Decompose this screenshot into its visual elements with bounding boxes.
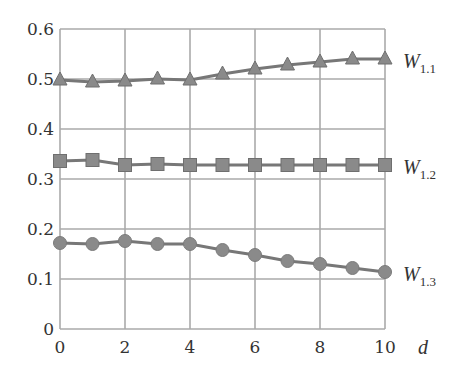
x-tick-label: 0 [55,337,66,357]
x-tick-label: 4 [185,337,196,357]
y-tick-label: 0.2 [27,219,54,239]
circle-marker [314,258,327,271]
square-marker [151,158,164,171]
y-tick-label: 0.4 [27,119,54,139]
square-marker [346,159,359,172]
data-series [53,51,392,279]
series-w1-2 [54,154,392,172]
square-marker [281,159,294,172]
square-marker [249,159,262,172]
series-label: W1.2 [403,156,436,182]
circle-marker [119,235,132,248]
circle-marker [249,249,262,262]
x-axis-label: d [418,336,429,358]
square-marker [119,159,132,172]
square-marker [184,159,197,172]
series-w1-3 [54,235,392,279]
y-tick-label: 0 [43,319,54,339]
triangle-marker [151,71,165,84]
line-chart: 00.10.20.30.40.50.60246810 W1.1W1.2W1.3 … [0,0,462,371]
circle-marker [346,262,359,275]
y-tick-label: 0.1 [27,269,54,289]
square-marker [216,159,229,172]
circle-marker [86,238,99,251]
series-label: W1.3 [403,263,436,289]
y-tick-label: 0.5 [27,69,54,89]
square-marker [379,159,392,172]
square-marker [86,154,99,167]
series-w1-1 [53,51,392,87]
y-tick-label: 0.3 [27,169,54,189]
x-tick-label: 10 [374,337,396,357]
x-tick-label: 2 [120,337,131,357]
x-tick-label: 8 [315,337,326,357]
square-marker [54,155,67,168]
axis-tick-labels: 00.10.20.30.40.50.60246810 [27,19,396,357]
series-labels: W1.1W1.2W1.3 [403,50,436,289]
circle-marker [54,237,67,250]
series-label: W1.1 [403,50,436,76]
circle-marker [216,244,229,257]
square-marker [314,159,327,172]
y-tick-label: 0.6 [27,19,54,39]
circle-marker [281,255,294,268]
circle-marker [151,238,164,251]
circle-marker [379,266,392,279]
x-tick-label: 6 [250,337,261,357]
circle-marker [184,238,197,251]
